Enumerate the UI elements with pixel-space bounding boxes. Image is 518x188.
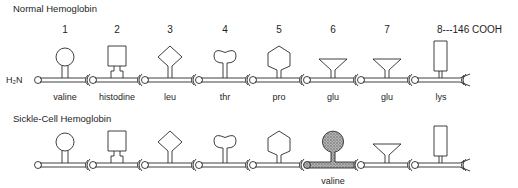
lysine-rect-icon <box>434 126 447 163</box>
sickle-chain <box>35 126 471 171</box>
valine-circle-icon <box>56 133 74 163</box>
leucine-diamond-icon <box>158 131 182 163</box>
mutant-valine-circle-icon <box>304 131 355 168</box>
leucine-diamond-icon <box>158 46 182 78</box>
hemoglobin-chain-diagram <box>0 0 518 188</box>
valine-circle-icon <box>56 48 74 78</box>
histidine-square-icon <box>108 46 126 78</box>
threonine-bilobe-icon <box>214 136 236 163</box>
normal-chain <box>35 41 471 86</box>
glutamate-funnel-icon <box>373 144 401 163</box>
histidine-square-icon <box>108 131 126 163</box>
threonine-bilobe-icon <box>214 51 236 78</box>
lysine-rect-icon <box>434 41 447 78</box>
proline-hexagon-icon <box>268 131 290 163</box>
proline-hexagon-icon <box>268 46 290 78</box>
glutamate-funnel-icon <box>373 59 401 78</box>
glutamate-funnel-icon <box>319 59 347 78</box>
